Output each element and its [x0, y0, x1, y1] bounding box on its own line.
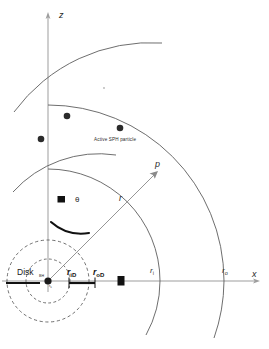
sph-particle-3: [117, 125, 124, 132]
radial-ray-line: [48, 174, 155, 281]
radial-ray-arrowhead: [150, 171, 159, 179]
inner-disk-radius-subscript: iD: [70, 272, 76, 278]
z-axis-tick: [58, 196, 66, 203]
outer-grid-radius-label: ro: [222, 267, 228, 275]
outer-disk-radius-label: roD: [93, 268, 104, 277]
schwarzschild-radius-label: rs: [49, 285, 52, 289]
theta-angle-label: θ: [75, 196, 79, 204]
active-sph-particle-note: Active SPH particle: [94, 138, 136, 143]
black-hole-marker: [44, 277, 51, 284]
schwarzschild-radius-subscript: s: [50, 285, 51, 289]
disk-label: Disk: [17, 268, 34, 277]
z-axis-label: z: [59, 11, 64, 20]
inner-grid-radius-subscript: i: [153, 270, 154, 276]
inner-disk-radius-label: riD: [67, 268, 76, 277]
faint-speck: [103, 87, 105, 89]
shell-arcs-group: [13, 43, 162, 192]
ray-length-label: r: [119, 194, 122, 203]
inner-grid-arc: [48, 169, 160, 335]
radial-ray-group: [48, 171, 158, 281]
x-axis-label: x: [252, 270, 257, 279]
sph-particle-1: [64, 113, 71, 120]
outer-disk-radius-subscript: oD: [96, 272, 104, 278]
outer-shell-arc: [14, 43, 162, 112]
outer-grid-radius-subscript: o: [225, 270, 228, 276]
inner-shell-arc: [13, 154, 116, 192]
diagram-canvas: [0, 0, 269, 349]
x-axis-tick: [118, 276, 125, 286]
inner-grid-radius-label: ri: [150, 267, 154, 275]
sph-particle-2: [38, 136, 45, 143]
theta-angle-arc: [51, 222, 89, 234]
sph-disk-geometry-figure: z x Disk riD roD ri ro p r θ Active SPH …: [0, 0, 269, 349]
ray-point-label: p: [155, 160, 160, 169]
black-hole-label: BH: [39, 275, 44, 279]
